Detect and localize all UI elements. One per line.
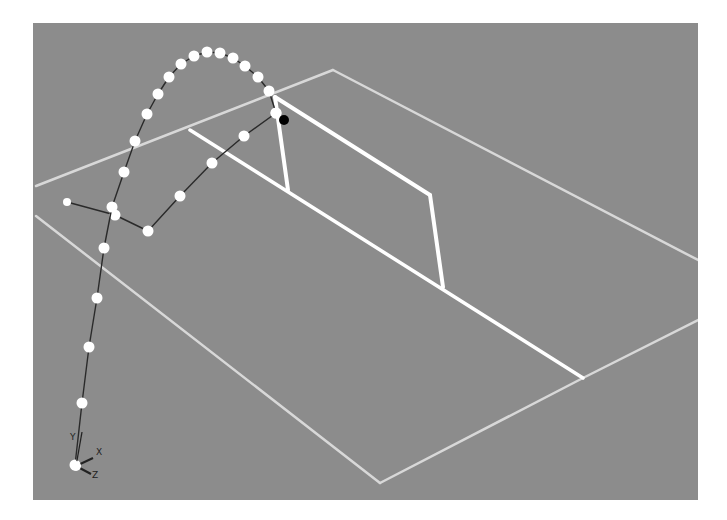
trajectory-segment bbox=[82, 347, 89, 403]
trajectory-point bbox=[142, 109, 153, 120]
trajectory-point bbox=[84, 342, 95, 353]
trajectory-point bbox=[271, 108, 282, 119]
ground-path-segment bbox=[212, 136, 244, 163]
axis-label-z: Z bbox=[92, 470, 98, 480]
ground-path-segment bbox=[115, 215, 148, 231]
tennis-net bbox=[275, 97, 443, 287]
trajectory-point bbox=[130, 136, 141, 147]
court-boundary-line bbox=[36, 70, 333, 186]
trajectory-point bbox=[228, 53, 239, 64]
trajectory-point bbox=[240, 61, 251, 72]
ground-path-point bbox=[207, 158, 218, 169]
trajectory-point bbox=[164, 72, 175, 83]
ground-path-segment bbox=[244, 113, 276, 136]
trajectory-point bbox=[77, 398, 88, 409]
ground-path-point bbox=[143, 226, 154, 237]
axis-label-x: X bbox=[96, 447, 102, 457]
axis-gizmo: Y X Z bbox=[69, 432, 102, 480]
ground-path-point bbox=[175, 191, 186, 202]
trajectory-point bbox=[107, 202, 118, 213]
trajectory-point bbox=[189, 51, 200, 62]
court-boundary-line bbox=[333, 70, 698, 260]
ground-path-segment bbox=[148, 196, 180, 231]
ball-ground-path bbox=[63, 108, 282, 237]
ground-path-segment bbox=[180, 163, 212, 196]
gizmo-origin-icon bbox=[71, 461, 81, 471]
court-scene: Y X Z bbox=[0, 0, 727, 520]
net-top-band bbox=[275, 97, 430, 195]
net-right-post bbox=[430, 195, 443, 287]
trajectory-point bbox=[119, 167, 130, 178]
trajectory-segment bbox=[75, 403, 82, 465]
trajectory-segment bbox=[112, 172, 124, 207]
trajectory-point bbox=[99, 243, 110, 254]
ball-trajectory-arc bbox=[70, 47, 282, 471]
court-boundary-line bbox=[583, 320, 698, 378]
ground-path-point bbox=[239, 131, 250, 142]
bounce-marker-icon bbox=[279, 115, 289, 125]
ground-path-point bbox=[63, 198, 71, 206]
trajectory-segment bbox=[89, 298, 97, 347]
court-boundary-line bbox=[380, 378, 583, 483]
bounce-marker bbox=[279, 115, 289, 125]
trajectory-point bbox=[153, 89, 164, 100]
trajectory-point bbox=[92, 293, 103, 304]
trajectory-point bbox=[176, 59, 187, 70]
trajectory-segment bbox=[97, 248, 104, 298]
court-outer-lines bbox=[36, 70, 698, 483]
axis-label-y: Y bbox=[69, 432, 76, 442]
trajectory-point bbox=[264, 86, 275, 97]
trajectory-point bbox=[202, 47, 213, 58]
trajectory-point bbox=[253, 72, 264, 83]
trajectory-point bbox=[215, 48, 226, 59]
